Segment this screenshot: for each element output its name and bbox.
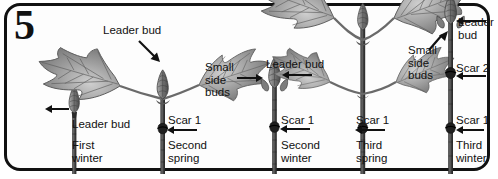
label-scar1-third-winter: Scar 1 (456, 114, 489, 127)
arrow-leader-bud-second-winter (282, 71, 312, 79)
arrow-scar1-second-winter (280, 125, 310, 133)
label-leader-bud-first-winter: Leader bud (72, 118, 130, 131)
plate-number: 5 (14, 4, 34, 46)
label-season-third-winter: Third winter (456, 139, 487, 164)
arrow-scar1-third-spring (355, 126, 385, 134)
arrow-leader-bud-first-winter (45, 105, 69, 113)
arrow-scar1-third-winter (456, 126, 484, 134)
arrow-small-side-buds-third-winter (428, 30, 450, 52)
arrow-scar1-second-spring (167, 126, 197, 134)
label-small-side-buds-second-winter: Small side buds (205, 61, 234, 99)
label-season-first-winter: First winter (72, 139, 103, 164)
label-scar1-second-spring: Scar 1 (168, 114, 201, 127)
figure-plate: 5 (0, 0, 498, 179)
arrow-leader-bud-third-winter (456, 17, 486, 25)
arrow-small-side-buds-second-winter (237, 74, 263, 82)
label-season-second-winter: Second winter (281, 139, 320, 164)
arrow-leader-bud-second-spring (138, 40, 164, 66)
label-scar1-third-spring: Scar 1 (356, 114, 389, 127)
label-leader-bud-second-winter: Leader bud (266, 58, 324, 71)
label-season-second-spring: Second spring (168, 139, 207, 164)
label-season-third-spring: Third spring (356, 139, 387, 164)
label-leader-bud-second-spring: Leader bud (103, 24, 161, 37)
arrow-scar2-third-winter (456, 72, 486, 80)
